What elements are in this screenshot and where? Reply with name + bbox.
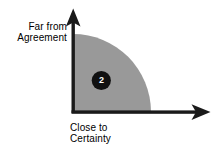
- x-axis-label-line-1: Close to: [70, 122, 111, 133]
- diagram-canvas: Far from Agreement Close to Certainty 2: [0, 0, 222, 161]
- y-axis-line: [72, 16, 75, 113]
- x-axis-line: [72, 110, 197, 113]
- shaded-quarter-circle-region: [73, 34, 151, 112]
- x-axis-label-line-2: Certainty: [70, 133, 111, 144]
- y-axis-label-line-2: Agreement: [17, 32, 67, 43]
- y-axis-label-line-1: Far from: [17, 21, 67, 32]
- x-axis-label: Close to Certainty: [70, 122, 111, 144]
- y-axis-label: Far from Agreement: [17, 21, 67, 43]
- region-marker-circle: [92, 71, 111, 90]
